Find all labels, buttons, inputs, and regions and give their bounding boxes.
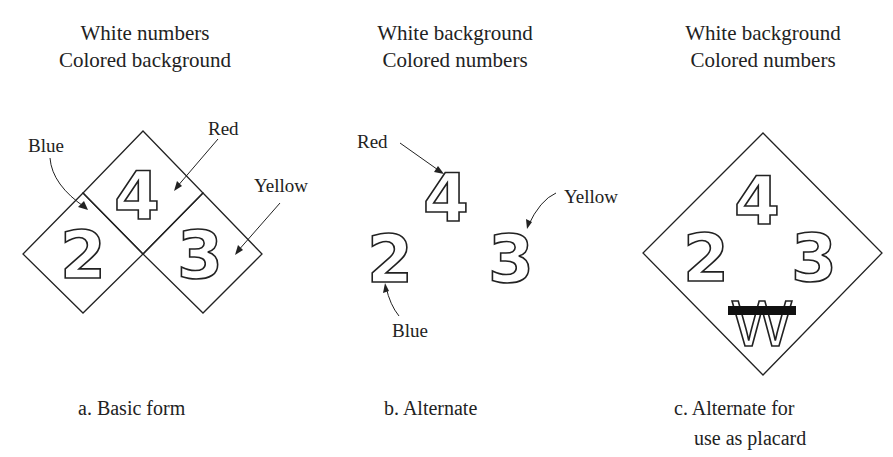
panel-c-letter-w: W bbox=[732, 288, 793, 360]
panel-a-label-blue: Blue bbox=[28, 135, 64, 157]
panel-b-caption-line1: b. Alternate bbox=[384, 393, 477, 423]
panel-b-label-yellow: Yellow bbox=[564, 186, 618, 208]
arrow-red bbox=[400, 143, 441, 172]
panel-b-label-red: Red bbox=[357, 131, 388, 153]
panel-c-number-2: 2 bbox=[683, 220, 729, 297]
panel-b-number-3: 3 bbox=[488, 221, 534, 298]
arrow-yellow bbox=[237, 203, 280, 252]
panel-a-caption: a. Basic form bbox=[78, 393, 185, 423]
panel-a-label-red: Red bbox=[208, 118, 239, 140]
panel-b-number-4: 4 bbox=[423, 160, 469, 237]
panel-a-number-2: 2 bbox=[60, 217, 106, 294]
panel-c-number-4: 4 bbox=[734, 163, 780, 240]
w-strikethrough-bar bbox=[728, 306, 796, 315]
panel-a-number-3: 3 bbox=[177, 217, 223, 294]
panel-b-label-blue: Blue bbox=[392, 320, 428, 342]
panel-b-number-2: 2 bbox=[367, 221, 413, 298]
panel-c-caption-line1: c. Alternate for bbox=[674, 393, 806, 423]
diagram-canvas: 4 2 3 4 2 3 4 2 3 W bbox=[0, 0, 893, 457]
panel-a-caption-line1: a. Basic form bbox=[78, 393, 185, 423]
arrow-red bbox=[176, 139, 218, 188]
panel-c-caption-line2: use as placard bbox=[674, 423, 806, 453]
panel-c-number-3: 3 bbox=[791, 220, 837, 297]
panel-c-caption: c. Alternate for use as placard bbox=[674, 393, 806, 453]
panel-b-caption: b. Alternate bbox=[384, 393, 477, 423]
panel-a-label-yellow: Yellow bbox=[254, 175, 308, 197]
arrow-blue bbox=[50, 158, 86, 208]
panel-a-number-4: 4 bbox=[114, 158, 160, 235]
